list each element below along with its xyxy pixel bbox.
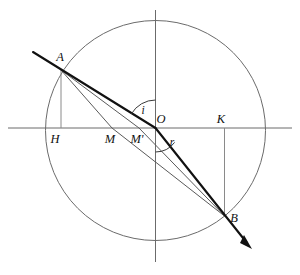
label-point-h: H (49, 132, 60, 146)
geometry-diagram: A B O H K M M' i r (0, 0, 300, 275)
aux-ray-mprime-b (139, 128, 225, 216)
label-angle-incidence: i (141, 104, 144, 116)
aux-ray-a-mprime (61, 70, 139, 128)
aux-ray-a-m (61, 70, 112, 128)
label-angle-refraction: r (170, 136, 175, 148)
figure-root: A B O H K M M' i r (0, 0, 300, 275)
label-point-a: A (55, 50, 64, 64)
label-point-m-prime: M' (129, 132, 143, 146)
label-point-m: M (104, 132, 116, 146)
aux-ray-m-b (112, 128, 225, 216)
label-point-k: K (216, 112, 226, 126)
label-point-b: B (230, 211, 238, 225)
incident-ray (33, 52, 156, 128)
label-point-o: O (156, 112, 165, 126)
